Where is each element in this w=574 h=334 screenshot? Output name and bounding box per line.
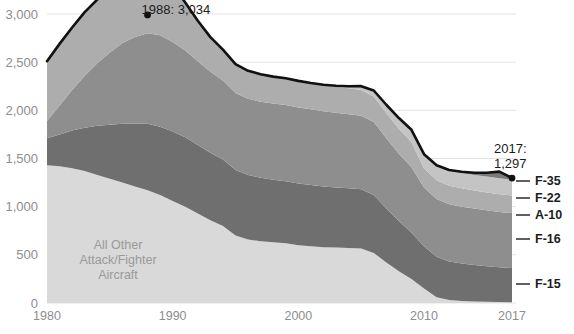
inplot-label-all-other-line-3: Aircraft — [98, 268, 138, 282]
x-tick-1990: 1990 — [159, 309, 187, 323]
x-axis-tick-labels: 19801990200020102017 — [33, 309, 526, 323]
y-tick-1000: 1,000 — [5, 199, 38, 214]
legend-label-f-22: F-22 — [535, 191, 561, 205]
x-tick-2017: 2017 — [498, 309, 526, 323]
stacked-area-chart: 05001,0001,5002,0002,5003,000 1980199020… — [0, 0, 574, 334]
y-tick-2000: 2,000 — [5, 103, 38, 118]
peak-annotation-label: 1988: 3,034 — [142, 2, 211, 17]
x-tick-2010: 2010 — [410, 309, 438, 323]
end-annotation-year: 2017: — [494, 141, 527, 156]
x-tick-2000: 2000 — [284, 309, 312, 323]
inplot-label-all-other-line-1: All Other — [94, 238, 143, 252]
legend-label-f-16: F-16 — [535, 232, 561, 246]
y-tick-2500: 2,500 — [5, 55, 38, 70]
legend-label-a-10: A-10 — [535, 208, 562, 222]
legend-label-f-35: F-35 — [535, 174, 561, 188]
y-tick-3000: 3,000 — [5, 7, 38, 22]
chart-canvas: 05001,0001,5002,0002,5003,000 1980199020… — [0, 0, 574, 334]
inplot-label-all-other-line-2: Attack/Fighter — [79, 253, 156, 267]
y-axis-tick-labels: 05001,0001,5002,0002,5003,000 — [5, 7, 38, 311]
end-annotation-value: 1,297 — [494, 156, 527, 171]
y-tick-500: 500 — [16, 247, 38, 262]
end-marker-dot — [509, 175, 516, 182]
x-tick-1980: 1980 — [33, 309, 61, 323]
series-legend: F-35F-22A-10F-16F-15 — [516, 174, 562, 291]
y-tick-1500: 1,500 — [5, 151, 38, 166]
legend-label-f-15: F-15 — [535, 277, 561, 291]
